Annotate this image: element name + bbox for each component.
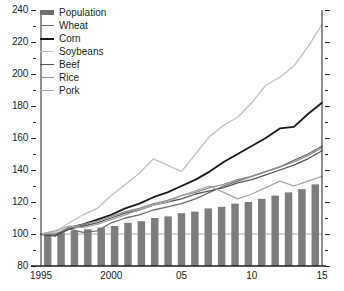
legend-line-swatch-icon <box>40 51 54 53</box>
chart-container: 80100120140160180200220240 1995200005101… <box>0 0 344 291</box>
bar <box>298 189 305 266</box>
legend-line-swatch-icon <box>40 64 54 66</box>
legend-item[interactable]: Population <box>40 6 106 19</box>
legend-item[interactable]: Wheat <box>40 19 106 32</box>
legend-label: Population <box>59 8 106 18</box>
chart-legend: PopulationWheatCornSoybeansBeefRicePork <box>40 6 106 97</box>
bar <box>312 184 319 266</box>
legend-label: Soybeans <box>59 47 103 57</box>
bar <box>218 207 225 266</box>
legend-item[interactable]: Corn <box>40 32 106 45</box>
legend-item[interactable]: Soybeans <box>40 45 106 58</box>
legend-item[interactable]: Pork <box>40 84 106 97</box>
bar <box>271 196 278 266</box>
bar <box>71 231 78 266</box>
legend-line-swatch-icon <box>40 77 54 79</box>
bar <box>285 192 292 266</box>
legend-bar-swatch-icon <box>40 10 54 15</box>
legend-label: Wheat <box>59 21 88 31</box>
bar <box>191 212 198 266</box>
legend-label: Rice <box>59 73 79 83</box>
bar <box>84 229 91 266</box>
bar <box>111 226 118 266</box>
legend-line-swatch-icon <box>40 90 54 92</box>
bar <box>178 213 185 266</box>
bar <box>205 208 212 266</box>
bar <box>164 216 171 266</box>
legend-label: Beef <box>59 60 80 70</box>
legend-line-swatch-icon <box>40 38 54 40</box>
bar <box>138 221 145 266</box>
legend-item[interactable]: Beef <box>40 58 106 71</box>
bar <box>151 218 158 266</box>
bar <box>231 204 238 266</box>
legend-line-swatch-icon <box>40 25 54 27</box>
bar <box>258 199 265 266</box>
legend-item[interactable]: Rice <box>40 71 106 84</box>
bar <box>245 202 252 266</box>
bar <box>97 228 104 266</box>
bar <box>124 223 131 266</box>
bar <box>57 232 64 266</box>
legend-label: Pork <box>59 86 80 96</box>
bar <box>44 234 51 266</box>
legend-label: Corn <box>59 34 81 44</box>
